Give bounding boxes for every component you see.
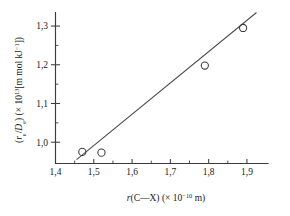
x-tick-label: 1,5 bbox=[88, 167, 100, 177]
tick-labels-group: 1,41,51,61,71,81,91,01,11,21,3 bbox=[36, 21, 253, 177]
data-points-group bbox=[79, 24, 247, 156]
fit-line-group bbox=[77, 13, 257, 160]
x-tick-label: 1,9 bbox=[241, 167, 253, 177]
y-tick-label: 1,1 bbox=[36, 99, 48, 109]
x-tick-label: 1,6 bbox=[126, 167, 138, 177]
y-axis-title-text: (re/De) (× 1013[m mol kJ−1]) bbox=[13, 37, 27, 143]
y-tick-label: 1,3 bbox=[36, 21, 48, 31]
x-axis-title: r(C—X) (× 10−10 m) bbox=[127, 192, 205, 205]
ticks-group bbox=[51, 26, 247, 163]
x-tick-label: 1,7 bbox=[164, 167, 176, 177]
data-point-marker bbox=[98, 149, 105, 156]
data-point-marker bbox=[240, 24, 247, 31]
scatter-plot: 1,41,51,61,71,81,91,01,11,21,3 r(C—X) (×… bbox=[0, 0, 290, 216]
x-tick-label: 1,8 bbox=[203, 167, 215, 177]
regression-line bbox=[77, 13, 257, 160]
y-axis-title: (re/De) (× 1013[m mol kJ−1]) bbox=[13, 37, 27, 143]
axes-group bbox=[56, 13, 269, 164]
figure-container: 1,41,51,61,71,81,91,01,11,21,3 r(C—X) (×… bbox=[0, 0, 290, 216]
y-tick-label: 1,0 bbox=[36, 138, 48, 148]
axis-spines bbox=[56, 13, 269, 164]
data-point-marker bbox=[201, 62, 208, 69]
x-tick-label: 1,4 bbox=[50, 167, 62, 177]
y-tick-label: 1,2 bbox=[36, 60, 48, 70]
x-axis-title-text: r(C—X) (× 10−10 m) bbox=[127, 192, 205, 205]
